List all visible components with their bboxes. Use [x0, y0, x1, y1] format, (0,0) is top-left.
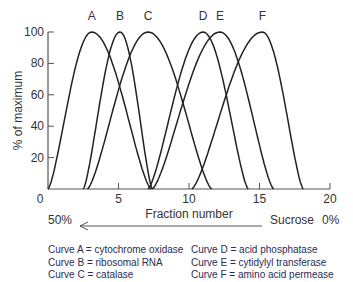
x-tick-label: 20 [323, 192, 337, 206]
y-tick-label: 100 [24, 25, 44, 39]
curve-label-a: A [88, 9, 96, 23]
curve-label-b: B [116, 9, 124, 23]
x-tick-label: 15 [253, 192, 267, 206]
legend-entry-d: Curve D = acid phosphatase [191, 244, 334, 257]
legend-entry-f: Curve F = amino acid permease [191, 269, 334, 282]
curve-f [192, 32, 303, 189]
curve-b [83, 32, 152, 189]
curve-label-c: C [144, 9, 153, 23]
legend-entry-e: Curve E = cytidylyl transferase [191, 257, 334, 270]
legend-entry-c: Curve C = catalase [48, 269, 183, 282]
sucrose-gradient-indicator: 50% Sucrose0% [0, 211, 353, 231]
legend-left: Curve A = cytochrome oxidase Curve B = r… [48, 244, 183, 282]
y-tick-label: 40 [31, 119, 45, 133]
curve-c [88, 32, 212, 189]
curve-label-f: F [259, 9, 266, 23]
y-tick-label: 80 [31, 56, 45, 70]
y-tick-label: 60 [31, 88, 45, 102]
legend-entry-b: Curve B = ribosomal RNA [48, 257, 183, 270]
gradient-left-label: 50% [48, 213, 72, 227]
curve-label-d: D [199, 9, 208, 23]
sedimentation-chart: 5101520020406080100Fraction number% of m… [0, 0, 353, 282]
gradient-right-name: Sucrose [270, 213, 314, 227]
gradient-right-value: 0% [322, 213, 339, 227]
y-axis-title: % of maximum [11, 71, 25, 150]
legend-entry-a: Curve A = cytochrome oxidase [48, 244, 183, 257]
x-tick-label: 10 [182, 192, 196, 206]
curve-label-e: E [216, 9, 224, 23]
origin-label: 0 [37, 192, 44, 206]
curve-a [48, 32, 151, 189]
y-tick-label: 20 [31, 151, 45, 165]
x-tick-label: 5 [115, 192, 122, 206]
gradient-right-label: Sucrose0% [270, 213, 339, 227]
legend-right: Curve D = acid phosphatase Curve E = cyt… [191, 244, 334, 282]
curves [48, 32, 303, 189]
